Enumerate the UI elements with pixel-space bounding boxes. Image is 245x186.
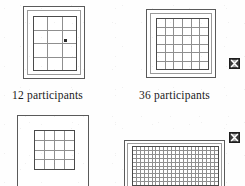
grid-cell bbox=[168, 167, 171, 170]
grid-cell bbox=[196, 163, 199, 166]
caption-36-participants: 36 participants bbox=[139, 89, 210, 101]
grid-cell bbox=[145, 178, 148, 181]
grid-cell bbox=[172, 151, 175, 154]
grid-cell bbox=[184, 170, 187, 173]
grid-cell bbox=[65, 141, 74, 150]
grid-cell bbox=[215, 151, 218, 154]
grid-cell bbox=[176, 147, 179, 150]
grid-cell bbox=[200, 62, 208, 70]
grid-cell bbox=[141, 167, 144, 170]
grid-cell bbox=[45, 131, 54, 140]
grid-cell bbox=[156, 167, 159, 170]
grid-cell bbox=[188, 167, 191, 170]
grid-cell bbox=[188, 155, 191, 158]
grid-cell bbox=[180, 159, 183, 162]
grid-cell bbox=[174, 28, 182, 36]
grid-cell bbox=[207, 151, 210, 154]
grid-cell bbox=[211, 170, 214, 173]
grid-cell bbox=[184, 174, 187, 177]
grid-cell bbox=[176, 155, 179, 158]
grid-cell bbox=[196, 167, 199, 170]
grid-cell bbox=[192, 36, 200, 44]
grid-cell bbox=[174, 36, 182, 44]
grid-cell bbox=[192, 174, 195, 177]
grid-cell bbox=[34, 31, 47, 44]
grid-cell bbox=[133, 147, 136, 150]
grid-cell bbox=[184, 155, 187, 158]
grid-cell bbox=[149, 178, 152, 181]
grid-cell bbox=[180, 163, 183, 166]
grid-cell bbox=[176, 170, 179, 173]
grid-cell bbox=[168, 174, 171, 177]
grid-cell bbox=[156, 170, 159, 173]
grid-cell bbox=[65, 151, 74, 160]
grid-cell bbox=[192, 62, 200, 70]
grid-cell bbox=[168, 178, 171, 181]
grid-cell bbox=[184, 182, 187, 185]
grid-cell bbox=[157, 19, 165, 27]
grid-cell bbox=[203, 147, 206, 150]
grid-cell bbox=[145, 174, 148, 177]
grid-cell bbox=[164, 182, 167, 185]
grid-cell bbox=[34, 44, 47, 57]
grid-cell bbox=[192, 170, 195, 173]
grid-cell bbox=[207, 163, 210, 166]
grid-cell bbox=[207, 182, 210, 185]
grid-cell bbox=[199, 163, 202, 166]
grid-marker-dot bbox=[64, 39, 67, 42]
grid-cell bbox=[168, 170, 171, 173]
grid-cell bbox=[141, 178, 144, 181]
grid-cell bbox=[133, 151, 136, 154]
grid-cell bbox=[145, 170, 148, 173]
grid-cell bbox=[34, 17, 47, 30]
grid-cell bbox=[203, 159, 206, 162]
grid-cell bbox=[141, 151, 144, 154]
grid-cell bbox=[215, 155, 218, 158]
grid-cell bbox=[184, 167, 187, 170]
grid-cell bbox=[156, 151, 159, 154]
grid-cell bbox=[211, 151, 214, 154]
grid-cell bbox=[133, 163, 136, 166]
grid-cell bbox=[188, 178, 191, 181]
grid-cell bbox=[149, 174, 152, 177]
grid-cell bbox=[35, 141, 44, 150]
grid-cell bbox=[180, 167, 183, 170]
grid-cell bbox=[203, 167, 206, 170]
grid-cell bbox=[133, 159, 136, 162]
grid-cell bbox=[168, 182, 171, 185]
grid-cell bbox=[166, 36, 174, 44]
grid-cell bbox=[156, 147, 159, 150]
grid-cell bbox=[180, 151, 183, 154]
grid-cell bbox=[172, 178, 175, 181]
grid-cell bbox=[215, 174, 218, 177]
grid-cell bbox=[156, 155, 159, 158]
grid-cell bbox=[184, 163, 187, 166]
grid-cell bbox=[63, 58, 76, 71]
grid-cell bbox=[149, 159, 152, 162]
grid-cell bbox=[153, 151, 156, 154]
grid-cell bbox=[199, 159, 202, 162]
grid-cell bbox=[160, 151, 163, 154]
grid-cell bbox=[137, 151, 140, 154]
grid-cell bbox=[183, 28, 191, 36]
bowtie-marker-icon bbox=[229, 58, 240, 69]
grid-cell bbox=[133, 178, 136, 181]
grid-cell bbox=[199, 170, 202, 173]
grid-cell bbox=[176, 151, 179, 154]
grid-cell bbox=[203, 163, 206, 166]
grid-cell bbox=[176, 159, 179, 162]
grid-cell bbox=[164, 155, 167, 158]
grid-cell bbox=[174, 19, 182, 27]
grid-cell bbox=[207, 170, 210, 173]
grid-cell bbox=[48, 58, 61, 71]
grid-cell bbox=[180, 174, 183, 177]
grid-cell bbox=[164, 147, 167, 150]
grid-cell bbox=[203, 151, 206, 154]
grid-cell bbox=[153, 163, 156, 166]
grid-cell bbox=[160, 170, 163, 173]
grid-cell bbox=[166, 62, 174, 70]
grid-cell bbox=[172, 167, 175, 170]
grid-cell bbox=[166, 45, 174, 53]
grid-cell bbox=[192, 53, 200, 61]
bowtie-marker-icon bbox=[229, 132, 240, 143]
